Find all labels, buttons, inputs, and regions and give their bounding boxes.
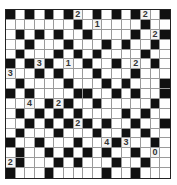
white-cell[interactable] <box>6 119 16 129</box>
white-cell[interactable] <box>151 129 161 139</box>
black-cell[interactable] <box>25 119 35 129</box>
white-cell[interactable] <box>160 99 170 109</box>
white-cell[interactable] <box>25 109 35 119</box>
white-cell[interactable] <box>6 99 16 109</box>
white-cell[interactable] <box>141 69 151 79</box>
white-cell[interactable] <box>102 10 112 20</box>
numbered-cell[interactable]: 4 <box>102 138 112 148</box>
black-cell[interactable] <box>141 129 151 139</box>
white-cell[interactable] <box>35 20 45 30</box>
white-cell[interactable] <box>131 99 141 109</box>
white-cell[interactable] <box>16 40 26 50</box>
white-cell[interactable] <box>141 168 151 178</box>
black-cell[interactable] <box>93 50 103 60</box>
white-cell[interactable] <box>6 129 16 139</box>
white-cell[interactable] <box>160 138 170 148</box>
white-cell[interactable] <box>83 109 93 119</box>
white-cell[interactable] <box>160 109 170 119</box>
white-cell[interactable] <box>25 69 35 79</box>
black-cell[interactable] <box>160 119 170 129</box>
white-cell[interactable] <box>160 20 170 30</box>
white-cell[interactable] <box>131 20 141 30</box>
white-cell[interactable] <box>151 119 161 129</box>
numbered-cell[interactable]: 3 <box>122 138 132 148</box>
black-cell[interactable] <box>151 40 161 50</box>
black-cell[interactable] <box>83 59 93 69</box>
white-cell[interactable] <box>151 69 161 79</box>
white-cell[interactable] <box>131 158 141 168</box>
white-cell[interactable] <box>151 158 161 168</box>
black-cell[interactable] <box>54 129 64 139</box>
black-cell[interactable] <box>93 129 103 139</box>
black-cell[interactable] <box>160 10 170 20</box>
white-cell[interactable] <box>83 138 93 148</box>
white-cell[interactable] <box>83 168 93 178</box>
black-cell[interactable] <box>35 109 45 119</box>
white-cell[interactable] <box>45 30 55 40</box>
white-cell[interactable] <box>16 69 26 79</box>
white-cell[interactable] <box>112 69 122 79</box>
white-cell[interactable] <box>102 59 112 69</box>
white-cell[interactable] <box>64 138 74 148</box>
white-cell[interactable] <box>6 50 16 60</box>
white-cell[interactable] <box>93 89 103 99</box>
black-cell[interactable] <box>93 99 103 109</box>
white-cell[interactable] <box>131 138 141 148</box>
white-cell[interactable] <box>122 50 132 60</box>
white-cell[interactable] <box>122 119 132 129</box>
white-cell[interactable] <box>74 30 84 40</box>
white-cell[interactable] <box>160 50 170 60</box>
white-cell[interactable] <box>112 20 122 30</box>
white-cell[interactable] <box>93 40 103 50</box>
black-cell[interactable] <box>64 10 74 20</box>
white-cell[interactable] <box>6 40 16 50</box>
numbered-cell[interactable]: 3 <box>35 59 45 69</box>
white-cell[interactable] <box>6 79 16 89</box>
white-cell[interactable] <box>64 158 74 168</box>
white-cell[interactable] <box>131 129 141 139</box>
black-cell[interactable] <box>102 40 112 50</box>
white-cell[interactable] <box>54 138 64 148</box>
white-cell[interactable] <box>151 168 161 178</box>
black-cell[interactable] <box>45 59 55 69</box>
black-cell[interactable] <box>112 158 122 168</box>
white-cell[interactable] <box>16 59 26 69</box>
white-cell[interactable] <box>25 50 35 60</box>
white-cell[interactable] <box>83 69 93 79</box>
black-cell[interactable] <box>112 89 122 99</box>
white-cell[interactable] <box>54 59 64 69</box>
white-cell[interactable] <box>83 50 93 60</box>
white-cell[interactable] <box>6 30 16 40</box>
white-cell[interactable] <box>16 119 26 129</box>
black-cell[interactable] <box>74 20 84 30</box>
white-cell[interactable] <box>45 69 55 79</box>
black-cell[interactable] <box>54 109 64 119</box>
white-cell[interactable] <box>160 129 170 139</box>
black-cell[interactable] <box>102 148 112 158</box>
white-cell[interactable] <box>93 79 103 89</box>
white-cell[interactable] <box>45 50 55 60</box>
black-cell[interactable] <box>16 129 26 139</box>
white-cell[interactable] <box>102 69 112 79</box>
white-cell[interactable] <box>54 168 64 178</box>
white-cell[interactable] <box>45 138 55 148</box>
black-cell[interactable] <box>45 119 55 129</box>
white-cell[interactable] <box>83 20 93 30</box>
white-cell[interactable] <box>112 109 122 119</box>
white-cell[interactable] <box>112 40 122 50</box>
white-cell[interactable] <box>45 89 55 99</box>
white-cell[interactable] <box>151 109 161 119</box>
white-cell[interactable] <box>45 20 55 30</box>
white-cell[interactable] <box>45 79 55 89</box>
white-cell[interactable] <box>64 69 74 79</box>
white-cell[interactable] <box>112 79 122 89</box>
white-cell[interactable] <box>83 158 93 168</box>
black-cell[interactable] <box>83 148 93 158</box>
white-cell[interactable] <box>151 50 161 60</box>
white-cell[interactable] <box>25 20 35 30</box>
white-cell[interactable] <box>74 79 84 89</box>
black-cell[interactable] <box>25 10 35 20</box>
black-cell[interactable] <box>64 99 74 109</box>
white-cell[interactable] <box>102 99 112 109</box>
black-cell[interactable] <box>160 89 170 99</box>
